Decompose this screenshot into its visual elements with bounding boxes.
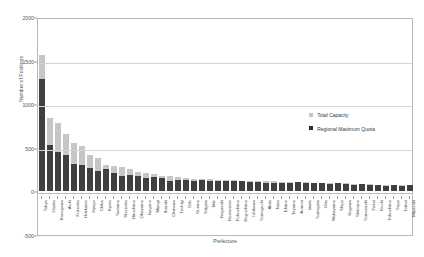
- x-tick-mark: [145, 196, 146, 199]
- x-tick-mark: [329, 196, 330, 199]
- x-tick-label-shiga: Shiga: [339, 200, 344, 211]
- bar-fukushima[interactable]: [231, 180, 237, 191]
- bar-segment-total-capacity: [71, 143, 77, 164]
- x-tick-label-chiba: Chiba: [99, 200, 104, 211]
- x-tick-label-oita: Oita: [323, 200, 328, 208]
- bar-tochigi[interactable]: [175, 177, 181, 191]
- bar-shizuoka[interactable]: [119, 167, 125, 192]
- bar-miyazaki[interactable]: [407, 185, 413, 191]
- bar-chiba[interactable]: [95, 158, 101, 191]
- bar-gifu[interactable]: [183, 178, 189, 191]
- bar-segment-regional-maximum-quota: [95, 171, 101, 191]
- y-tick-label: 500: [4, 146, 34, 152]
- bar-kanagawa[interactable]: [55, 123, 61, 192]
- bar-segment-total-capacity: [111, 166, 117, 173]
- bar-segment-regional-maximum-quota: [215, 181, 221, 191]
- light-gray-swatch-icon: [309, 113, 313, 117]
- x-tick-mark: [57, 196, 58, 199]
- x-tick-mark: [313, 196, 314, 199]
- x-tick-label-fukuoka: Fukuoka: [75, 200, 80, 216]
- bar-tokushima[interactable]: [383, 185, 389, 191]
- bar-ishikawa[interactable]: [247, 181, 253, 191]
- bar-wakayama[interactable]: [327, 183, 333, 191]
- x-tick-label-shimane: Shimane: [355, 200, 360, 217]
- bar-segment-regional-maximum-quota: [159, 178, 165, 191]
- x-tick-label-tokushima: Tokushima: [387, 200, 392, 221]
- bar-osaka[interactable]: [47, 118, 53, 191]
- bar-toyama[interactable]: [287, 182, 293, 191]
- bar-segment-regional-maximum-quota: [167, 181, 173, 191]
- x-tick-mark: [377, 196, 378, 199]
- bar-hiroshima[interactable]: [127, 169, 133, 192]
- bar-nagasaki[interactable]: [215, 180, 221, 192]
- bar-gunma[interactable]: [191, 179, 197, 192]
- bar-tokyo[interactable]: [39, 55, 45, 191]
- bar-oita[interactable]: [319, 183, 325, 192]
- bar-yamagata[interactable]: [311, 183, 317, 192]
- bar-saga[interactable]: [391, 185, 397, 192]
- bar-segment-regional-maximum-quota: [55, 152, 61, 192]
- bar-niigata[interactable]: [199, 179, 205, 191]
- bar-segment-regional-maximum-quota: [63, 155, 69, 192]
- bar-akita[interactable]: [263, 181, 269, 191]
- bar-kyoto[interactable]: [103, 165, 109, 192]
- bar-nara[interactable]: [271, 181, 277, 191]
- bar-segment-regional-maximum-quota: [191, 181, 197, 192]
- bar-shiga[interactable]: [335, 183, 341, 192]
- bar-tottori[interactable]: [399, 185, 405, 191]
- bar-saitama[interactable]: [111, 166, 117, 191]
- y-tick-label: 1500: [4, 59, 34, 65]
- x-tick-mark: [337, 196, 338, 199]
- x-tick-mark: [217, 196, 218, 199]
- bar-shimane[interactable]: [351, 184, 357, 191]
- bar-nagano[interactable]: [143, 173, 149, 191]
- bar-segment-regional-maximum-quota: [279, 183, 285, 192]
- x-tick-label-yamagata: Yamagata: [315, 200, 320, 219]
- bar-kagoshima[interactable]: [239, 181, 245, 192]
- bar-segment-regional-maximum-quota: [407, 185, 413, 191]
- legend-label: Regional Maximum Quota: [317, 126, 375, 133]
- bar-segment-regional-maximum-quota: [103, 169, 109, 191]
- bar-fukui[interactable]: [367, 184, 373, 191]
- bar-segment-regional-maximum-quota: [87, 168, 93, 191]
- bar-okayama[interactable]: [135, 172, 141, 191]
- x-tick-mark: [121, 196, 122, 199]
- bar-segment-regional-maximum-quota: [175, 180, 181, 192]
- bar-kochi[interactable]: [375, 185, 381, 192]
- x-tick-label-osaka: Osaka: [51, 200, 56, 212]
- x-tick-label-miyagi: Miyagi: [155, 200, 160, 212]
- bar-ibaraki[interactable]: [159, 176, 165, 192]
- bar-iwate[interactable]: [303, 182, 309, 191]
- x-tick-label-kagoshima: Kagoshima: [243, 200, 248, 222]
- bar-yamaguchi[interactable]: [255, 181, 261, 191]
- bar-miyagi[interactable]: [151, 174, 157, 191]
- bar-yamanashi[interactable]: [359, 184, 365, 191]
- x-tick-mark: [105, 196, 106, 199]
- bar-segment-total-capacity: [63, 134, 69, 154]
- bar-ehime[interactable]: [279, 182, 285, 192]
- y-tick-label: 0: [4, 189, 34, 195]
- x-tick-label-tottori: Tottori: [403, 200, 408, 212]
- bar-okinawa[interactable]: [167, 176, 173, 191]
- bar-kumamoto[interactable]: [223, 180, 229, 192]
- bar-kagawa[interactable]: [343, 183, 349, 191]
- x-tick-label-hyogo: Hyogo: [91, 200, 96, 212]
- bar-segment-total-capacity: [55, 123, 61, 152]
- bar-segment-total-capacity: [87, 155, 93, 168]
- bar-segment-regional-maximum-quota: [319, 183, 325, 191]
- x-tick-label-saitama: Saitama: [115, 200, 120, 216]
- bar-hokkaido[interactable]: [79, 146, 85, 192]
- bar-segment-regional-maximum-quota: [71, 164, 77, 192]
- bar-segment-regional-maximum-quota: [335, 183, 341, 192]
- bar-hyogo[interactable]: [87, 155, 93, 191]
- x-tick-mark: [257, 196, 258, 199]
- bar-mie[interactable]: [207, 179, 213, 191]
- bar-segment-regional-maximum-quota: [399, 186, 405, 191]
- bar-aichi[interactable]: [63, 134, 69, 191]
- x-tick-label-aomori: Aomori: [299, 200, 304, 214]
- bar-aomori[interactable]: [295, 182, 301, 191]
- x-tick-label-niigata: Niigata: [203, 200, 208, 213]
- bar-segment-regional-maximum-quota: [239, 181, 245, 191]
- legend-label: Total Capacity: [317, 112, 348, 119]
- x-tick-label-yamaguchi: Yamaguchi: [259, 200, 264, 221]
